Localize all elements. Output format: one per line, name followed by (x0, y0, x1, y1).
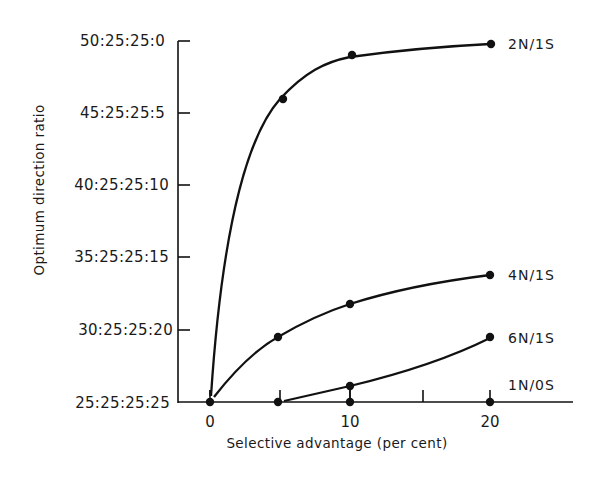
series-label: 4N/1S (508, 267, 555, 283)
y-tick-label: 40:25:25:10 (74, 176, 169, 194)
data-point (274, 398, 282, 406)
data-point (487, 40, 495, 48)
y-tick-label: 35:25:25:15 (74, 248, 169, 266)
x-tick-label: 10 (340, 413, 359, 431)
data-point (279, 95, 287, 103)
y-tick-label: 45:25:25:5 (80, 104, 165, 122)
data-point (486, 333, 494, 341)
series-label: 1N/0S (508, 377, 555, 393)
data-point (206, 398, 214, 406)
x-tick-label: 20 (480, 413, 499, 431)
chart: 50:25:25:0 45:25:25:5 40:25:25:10 35:25:… (0, 0, 604, 477)
y-tick-label: 25:25:25:25 (75, 394, 170, 412)
x-axis: 0 10 20 Selective advantage (per cent) (178, 390, 573, 451)
data-point (346, 382, 354, 390)
y-axis-title: Optimum direction ratio (31, 104, 47, 275)
series-label: 6N/1S (508, 330, 555, 346)
data-point (486, 271, 494, 279)
y-tick-label: 30:25:25:20 (78, 321, 173, 339)
data-point (486, 398, 494, 406)
series-label: 2N/1S (508, 36, 555, 52)
data-point (346, 398, 354, 406)
y-axis: 50:25:25:0 45:25:25:5 40:25:25:10 35:25:… (31, 32, 190, 412)
curve-2n-1s (211, 44, 490, 396)
x-tick-label: 0 (205, 413, 215, 431)
data-point (348, 51, 356, 59)
y-tick-label: 50:25:25:0 (80, 32, 165, 50)
series-2n-1s: 2N/1S (211, 36, 555, 396)
data-point (274, 333, 282, 341)
data-point (346, 300, 354, 308)
curve-4n-1s (214, 275, 490, 397)
curve-6n-1s (284, 338, 490, 401)
x-axis-title: Selective advantage (per cent) (226, 435, 447, 451)
